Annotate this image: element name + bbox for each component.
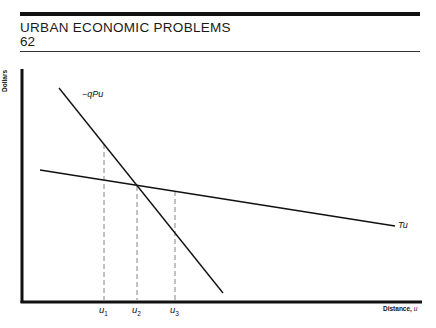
qpu-curve-label: −qPu — [82, 89, 103, 99]
tick-u3: u3 — [170, 304, 179, 317]
tick-u2: u2 — [132, 304, 141, 317]
y-axis-label: Dollars — [1, 70, 8, 92]
tick-u1: u1 — [99, 304, 108, 317]
x-axis-label-text: Distance, — [383, 305, 414, 312]
qpu-line — [59, 88, 223, 293]
tu-curve-label: Tu — [398, 220, 408, 230]
x-axis-label: Distance, u — [383, 305, 417, 312]
chart-figure — [0, 0, 436, 328]
tu-line — [40, 170, 395, 226]
x-axis-label-var: u — [414, 305, 418, 312]
